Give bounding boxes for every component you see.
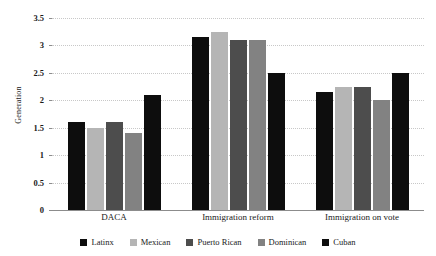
bar [316, 92, 333, 210]
bar-chart: Generation 00.511.522.533.5 DACAImmigrat… [0, 0, 436, 256]
legend-swatch-icon [322, 239, 329, 246]
legend-item[interactable]: Dominican [258, 237, 307, 247]
legend-swatch-icon [258, 239, 265, 246]
bar [125, 133, 142, 210]
legend-item[interactable]: Puerto Rican [186, 237, 241, 247]
x-axis-labels: DACAImmigration reformImmigration on vot… [52, 212, 424, 228]
legend-label: Mexican [141, 237, 171, 247]
bar-group [316, 18, 409, 210]
bar [335, 87, 352, 210]
legend-swatch-icon [80, 239, 87, 246]
bar [230, 40, 247, 210]
legend-swatch-icon [186, 239, 193, 246]
legend-label: Cuban [333, 237, 355, 247]
bar [354, 87, 371, 210]
legend-label: Latinx [91, 237, 113, 247]
bar-groups [52, 18, 424, 210]
y-axis-ticks: 00.511.522.533.5 [0, 18, 50, 210]
legend-label: Dominican [269, 237, 307, 247]
legend-item[interactable]: Latinx [80, 237, 113, 247]
x-axis-label: DACA [52, 212, 176, 222]
bar [373, 100, 390, 210]
bar [211, 32, 228, 210]
bar [87, 128, 104, 210]
bar [144, 95, 161, 210]
y-tick-label: 0.5 [33, 178, 44, 188]
legend: LatinxMexicanPuerto RicanDominicanCuban [0, 234, 436, 250]
bar [392, 73, 409, 210]
gridline [52, 210, 424, 211]
y-tick-label: 1.5 [33, 123, 44, 133]
legend-label: Puerto Rican [197, 237, 241, 247]
bar [106, 122, 123, 210]
bar [68, 122, 85, 210]
bar-group [192, 18, 285, 210]
plot-area [52, 18, 424, 210]
legend-swatch-icon [130, 239, 137, 246]
y-tick-label: 1 [40, 150, 44, 160]
bar-group [68, 18, 161, 210]
y-tick-label: 2 [40, 95, 44, 105]
bar [268, 73, 285, 210]
y-tick-label: 2.5 [33, 68, 44, 78]
bar [249, 40, 266, 210]
x-axis-label: Immigration on vote [300, 212, 424, 222]
y-tick-label: 3 [40, 40, 44, 50]
legend-item[interactable]: Mexican [130, 237, 171, 247]
x-axis-label: Immigration reform [176, 212, 300, 222]
y-tick-label: 3.5 [33, 13, 44, 23]
legend-item[interactable]: Cuban [322, 237, 355, 247]
bar [192, 37, 209, 210]
y-tick-label: 0 [40, 205, 44, 215]
